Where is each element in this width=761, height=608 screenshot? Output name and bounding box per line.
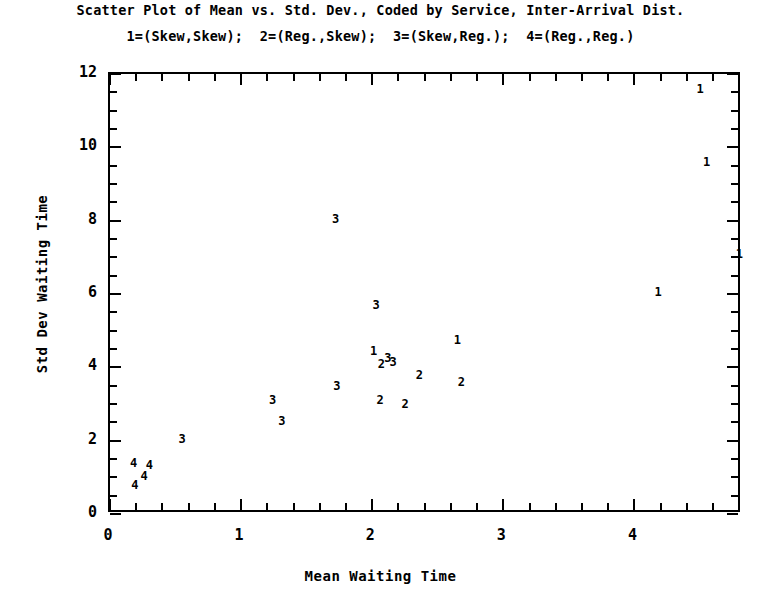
y-axis-tick-right <box>731 330 738 332</box>
y-tick-label: 6 <box>55 283 97 301</box>
y-axis-tick <box>110 220 121 222</box>
y-axis-tick-right <box>731 403 738 405</box>
y-axis-tick-right <box>731 201 738 203</box>
y-axis-tick-right <box>727 440 738 442</box>
y-axis-tick-right <box>727 366 738 368</box>
x-axis-tick-top <box>581 74 583 81</box>
y-axis-tick-right <box>731 91 738 93</box>
x-tick-label: 3 <box>481 526 521 544</box>
x-axis-tick <box>345 503 347 510</box>
chart-title: Scatter Plot of Mean vs. Std. Dev., Code… <box>0 2 761 18</box>
x-axis-tick <box>161 503 163 510</box>
x-axis-tick <box>607 503 609 510</box>
x-axis-tick-top <box>424 74 426 81</box>
data-point: 2 <box>412 369 426 381</box>
y-axis-tick <box>110 495 117 497</box>
x-axis-tick-top <box>555 74 557 81</box>
y-axis-tick <box>110 293 121 295</box>
y-axis-tick-right <box>731 275 738 277</box>
x-axis-tick <box>712 503 714 510</box>
y-axis-tick-right <box>731 476 738 478</box>
y-axis-tick-right <box>731 110 738 112</box>
y-axis-tick-right <box>727 513 738 515</box>
x-axis-tick <box>188 503 190 510</box>
x-axis-tick <box>424 503 426 510</box>
x-axis-tick-top <box>161 74 163 81</box>
y-tick-label: 4 <box>55 356 97 374</box>
x-axis-tick-top <box>712 74 714 81</box>
x-axis-tick-top <box>135 74 137 81</box>
x-axis-tick-top <box>109 74 111 85</box>
y-axis-tick <box>110 238 117 240</box>
x-tick-label: 1 <box>219 526 259 544</box>
data-point: 1 <box>700 156 714 168</box>
y-axis-tick <box>110 110 117 112</box>
x-axis-tick-top <box>607 74 609 81</box>
x-axis-tick-top <box>397 74 399 81</box>
x-tick-label: 4 <box>612 526 652 544</box>
data-point: 3 <box>386 356 400 368</box>
x-axis-tick <box>660 503 662 510</box>
y-axis-tick-right <box>731 238 738 240</box>
x-axis-tick <box>633 499 635 510</box>
y-axis-tick-right <box>731 165 738 167</box>
data-point: 1 <box>450 334 464 346</box>
data-point: 3 <box>266 394 280 406</box>
y-axis-title: Std Dev Waiting Time <box>34 164 50 404</box>
x-axis-tick <box>240 499 242 510</box>
y-axis-tick <box>110 330 117 332</box>
y-axis-tick-right <box>731 421 738 423</box>
x-axis-tick <box>476 503 478 510</box>
y-axis-tick <box>110 458 117 460</box>
x-axis-tick <box>502 499 504 510</box>
y-axis-tick-right <box>731 183 738 185</box>
data-point: 1 <box>367 345 381 357</box>
x-axis-tick-top <box>188 74 190 81</box>
y-axis-tick <box>110 146 121 148</box>
y-axis-tick-right <box>727 293 738 295</box>
x-axis-tick <box>450 503 452 510</box>
y-axis-tick <box>110 91 117 93</box>
x-axis-tick-top <box>738 74 740 81</box>
y-tick-label: 8 <box>55 210 97 228</box>
x-axis-tick-top <box>240 74 242 85</box>
data-point: 1 <box>693 83 707 95</box>
x-axis-tick-top <box>266 74 268 81</box>
x-axis-tick <box>293 503 295 510</box>
y-axis-tick <box>110 256 117 258</box>
data-point: 2 <box>373 394 387 406</box>
y-axis-tick <box>110 201 117 203</box>
x-axis-tick-top <box>476 74 478 81</box>
y-axis-tick <box>110 421 117 423</box>
x-axis-tick <box>397 503 399 510</box>
y-tick-label: 10 <box>55 136 97 154</box>
y-axis-tick <box>110 165 117 167</box>
x-axis-tick-top <box>633 74 635 85</box>
x-axis-tick-top <box>214 74 216 81</box>
y-axis-tick-right <box>731 311 738 313</box>
plot-area: 11311311323223322334444 <box>108 72 740 512</box>
y-axis-tick <box>110 275 117 277</box>
x-axis-title: Mean Waiting Time <box>0 568 761 584</box>
x-axis-tick <box>109 499 111 510</box>
x-axis-tick-top <box>293 74 295 81</box>
data-point: 4 <box>127 457 141 469</box>
x-tick-label: 2 <box>350 526 390 544</box>
data-point: 2 <box>454 376 468 388</box>
y-axis-tick-right <box>727 220 738 222</box>
y-axis-tick <box>110 403 117 405</box>
y-axis-tick <box>110 128 117 130</box>
x-axis-tick <box>214 503 216 510</box>
y-tick-label: 2 <box>55 430 97 448</box>
x-axis-tick-top <box>502 74 504 85</box>
y-axis-tick-right <box>727 146 738 148</box>
y-tick-label: 0 <box>55 503 97 521</box>
x-axis-tick-top <box>686 74 688 81</box>
x-axis-tick <box>371 499 373 510</box>
x-axis-tick <box>555 503 557 510</box>
y-axis-tick <box>110 440 121 442</box>
y-axis-tick-right <box>731 458 738 460</box>
x-axis-tick-top <box>371 74 373 85</box>
x-axis-tick <box>581 503 583 510</box>
data-point: 3 <box>330 380 344 392</box>
